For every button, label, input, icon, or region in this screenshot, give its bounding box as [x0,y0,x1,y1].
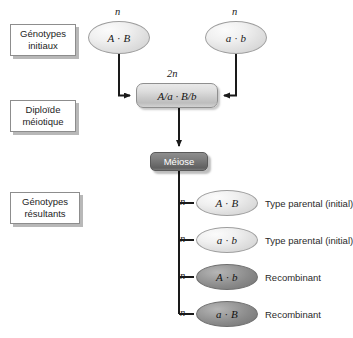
outcome-label-gamete-4: Recombinant [265,309,321,320]
ploidy-label-gamete-2: n [180,233,185,244]
ploidy-label-gamete-1: n [180,196,185,207]
stage-label-line2: initiaux [15,40,71,52]
stage-label-initial-genotypes: Génotypes initiaux [10,24,76,56]
outcome-label-gamete-2: Type parental (initial) [265,235,353,246]
ploidy-label-diploid: 2n [167,68,178,79]
outcome-label-gamete-3: Recombinant [265,272,321,283]
stage-label-line1: Diploïde [15,104,71,116]
stage-label-line1: Génotypes [15,28,71,40]
connector-parent-left-to-diploid [119,54,130,96]
diploid-genotype-box: A/a · B/b [136,83,218,108]
meiosis-process-box: Méiose [150,152,208,171]
product-gamete-1: A · B [196,190,258,216]
outcome-label-gamete-1: Type parental (initial) [265,198,353,209]
parent-gamete-left: A · B [88,21,150,54]
ploidy-label-gamete-3: n [180,270,185,281]
ploidy-label-parent-left: n [115,6,120,17]
product-gamete-4: a · B [196,301,258,327]
product-gamete-2: a · b [196,227,258,253]
stage-label-meiotic-diploid: Diploïde méiotique [10,100,76,132]
product-gamete-3: A · b [196,264,258,290]
ploidy-label-gamete-4: n [180,307,185,318]
stage-label-resulting-genotypes: Génotypes résultants [10,192,80,224]
connector-parent-right-to-diploid [224,54,236,96]
parent-gamete-right: a · b [205,21,267,54]
ploidy-label-parent-right: n [232,6,237,17]
stage-label-line2: méiotique [15,116,71,128]
stage-label-line1: Génotypes [15,196,75,208]
stage-label-line2: résultants [15,208,75,220]
